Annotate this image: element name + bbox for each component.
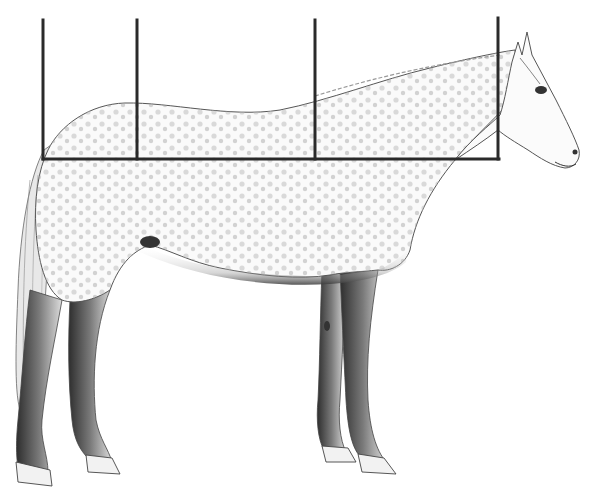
horse-body [36,50,521,302]
horse-drawing [0,0,593,498]
front-legs [317,268,396,474]
horse-conformation-illustration [0,0,593,498]
hind-legs [16,290,120,486]
